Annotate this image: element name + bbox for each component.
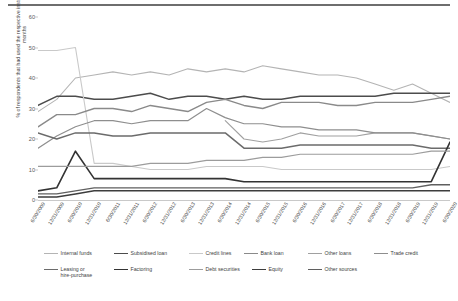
y-axis-title-container: % of respondents that had used the respe… bbox=[0, 10, 14, 210]
x-axis-tick-label: 6/30/2018 bbox=[366, 201, 383, 223]
plot-area: 0102030405060 bbox=[38, 17, 450, 200]
legend-swatch-line-icon bbox=[114, 269, 128, 270]
legend-label: Other loans bbox=[325, 250, 352, 256]
x-axis-tick-label: 12/31/2015 bbox=[271, 201, 290, 226]
line-chart: % of respondents that had used the respe… bbox=[0, 0, 458, 301]
legend-item[interactable]: Trade credit bbox=[374, 250, 418, 256]
x-axis-tick-label: 6/30/2009 bbox=[29, 201, 46, 223]
legend-label: Equity bbox=[269, 266, 283, 272]
x-axis-tick-label: 12/31/2013 bbox=[196, 201, 215, 226]
legend-label: Factoring bbox=[131, 266, 153, 272]
legend-label: Internal funds bbox=[61, 250, 92, 256]
x-axis-tick-label: 6/30/2010 bbox=[66, 201, 83, 223]
series-line bbox=[38, 185, 450, 194]
legend-item[interactable]: Internal funds bbox=[44, 250, 92, 256]
x-axis-tick-label: 6/30/2015 bbox=[254, 201, 271, 223]
x-axis-tick-label: 12/31/2009 bbox=[46, 201, 65, 226]
legend-label: Trade credit bbox=[391, 250, 419, 256]
legend-item[interactable]: Credit lines bbox=[189, 250, 231, 256]
series-line bbox=[38, 151, 450, 166]
legend-item[interactable]: Other loans bbox=[308, 250, 351, 256]
series-line bbox=[38, 109, 450, 149]
legend-swatch-line-icon bbox=[308, 253, 322, 254]
x-axis-tick-label: 12/31/2012 bbox=[159, 201, 178, 226]
x-axis-tick-label: 6/30/2013 bbox=[179, 201, 196, 223]
legend-swatch-line-icon bbox=[44, 253, 58, 254]
legend-label: Subsidised loan bbox=[131, 250, 168, 256]
legend-swatch-line-icon bbox=[44, 269, 58, 270]
legend-label: Leasing or hire-purchase bbox=[61, 266, 93, 278]
legend-swatch-line-icon bbox=[114, 253, 128, 254]
legend-label: Debt securities bbox=[206, 266, 240, 272]
x-axis-tick-label: 12/31/2014 bbox=[233, 201, 252, 226]
legend-label: Other sources bbox=[325, 266, 358, 272]
legend-item[interactable]: Other sources bbox=[308, 266, 357, 272]
x-axis-tick-label: 6/30/2020 bbox=[441, 201, 458, 223]
x-axis-tick-label: 6/30/2016 bbox=[291, 201, 308, 223]
x-axis-tick-label: 6/30/2017 bbox=[329, 201, 346, 223]
legend-swatch-line-icon bbox=[374, 253, 388, 254]
series-line bbox=[38, 96, 450, 127]
top-divider bbox=[8, 4, 450, 6]
x-axis-tick-label: 6/30/2014 bbox=[216, 201, 233, 223]
legend-item[interactable]: Debt securities bbox=[189, 266, 240, 272]
legend-label: Bank loan bbox=[261, 250, 284, 256]
legend-item[interactable]: Leasing or hire-purchase bbox=[44, 266, 92, 278]
legend-swatch-line-icon bbox=[189, 269, 203, 270]
legend-item[interactable]: Equity bbox=[252, 266, 283, 272]
chart-legend: Internal fundsSubsidised loanCredit line… bbox=[44, 250, 444, 282]
legend-row-primary: Internal fundsSubsidised loanCredit line… bbox=[44, 250, 444, 266]
x-axis-tick-label: 12/31/2019 bbox=[421, 201, 440, 226]
x-axis-tick-label: 6/30/2011 bbox=[104, 201, 121, 223]
x-axis-tick-label: 6/30/2012 bbox=[141, 201, 158, 223]
legend-swatch-line-icon bbox=[189, 253, 203, 254]
legend-row-secondary: Leasing or hire-purchaseFactoringDebt se… bbox=[44, 266, 444, 282]
legend-item[interactable]: Factoring bbox=[114, 266, 152, 272]
x-axis-labels: 6/30/200912/31/20096/30/201012/31/20106/… bbox=[38, 201, 450, 247]
y-axis-title: % of respondents that had used the respe… bbox=[15, 0, 28, 125]
x-axis-tick-label: 12/31/2018 bbox=[383, 201, 402, 226]
x-axis-tick-label: 12/31/2016 bbox=[308, 201, 327, 226]
x-axis-tick-label: 12/31/2011 bbox=[121, 201, 139, 225]
legend-item[interactable]: Bank loan bbox=[244, 250, 284, 256]
legend-item[interactable]: Subsidised loan bbox=[114, 250, 167, 256]
x-axis-tick-label: 12/31/2017 bbox=[346, 201, 365, 226]
x-axis-tick-label: 12/31/2010 bbox=[84, 201, 103, 226]
legend-swatch-line-icon bbox=[252, 269, 266, 270]
legend-swatch-line-icon bbox=[244, 253, 258, 254]
series-canvas bbox=[38, 17, 450, 200]
series-line bbox=[38, 133, 450, 148]
series-line bbox=[38, 93, 450, 105]
legend-swatch-line-icon bbox=[308, 269, 322, 270]
series-line bbox=[38, 191, 450, 197]
series-line bbox=[38, 66, 450, 112]
x-axis-tick-label: 6/30/2019 bbox=[404, 201, 421, 223]
legend-label: Credit lines bbox=[206, 250, 232, 256]
